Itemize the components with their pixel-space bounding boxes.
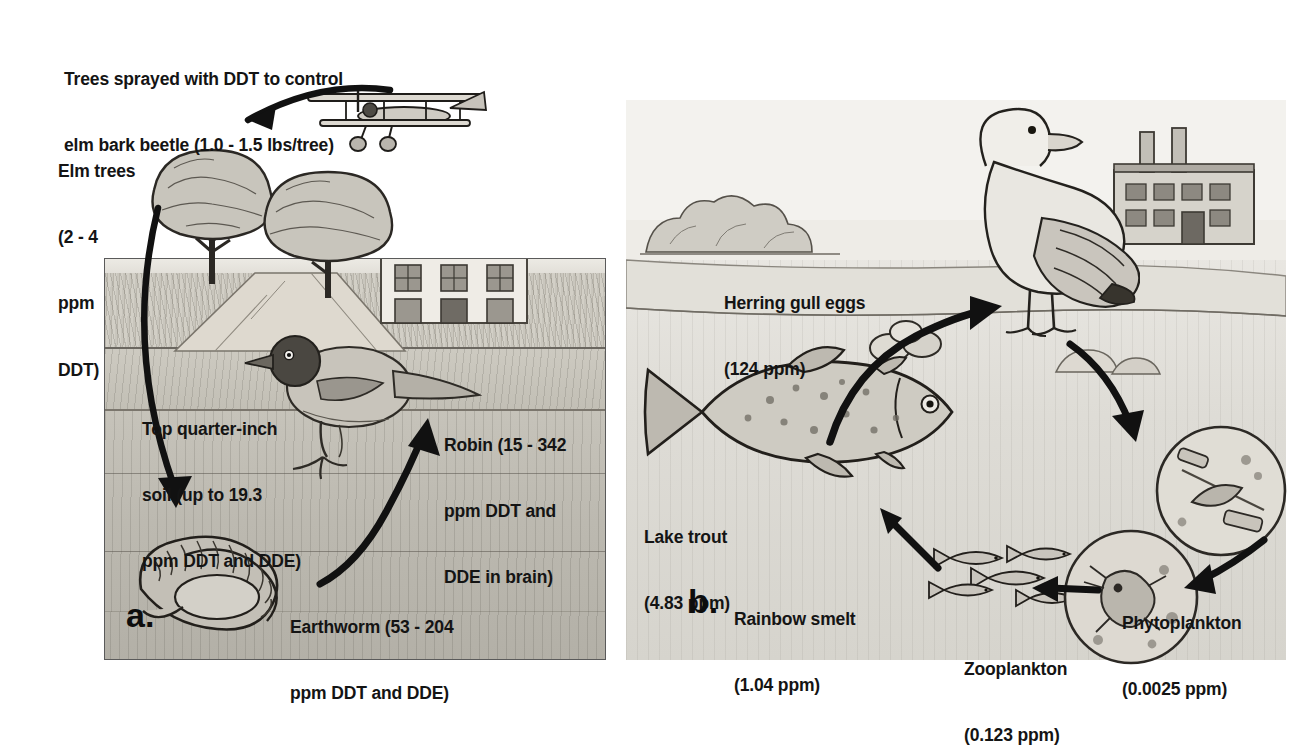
label-robin-line2: ppm DDT and [444, 500, 566, 522]
panel-b: Herring gull eggs (124 ppm) Lake trout (… [626, 100, 1286, 660]
label-rainbow-smelt: Rainbow smelt (1.04 ppm) [734, 564, 856, 740]
straight-arrow-smelt-to-trout-icon [864, 496, 950, 582]
label-elm-line1: Elm trees [58, 160, 135, 182]
label-earthworm: Earthworm (53 - 204 ppm DDT and DDE) [290, 572, 453, 748]
label-spray-line1: Trees sprayed with DDT to control [64, 68, 343, 90]
label-phyto-line2: (0.0025 ppm) [1122, 678, 1242, 700]
label-gull-line2: (124 ppm) [724, 358, 865, 380]
label-zoo-line1: Zooplankton [964, 658, 1067, 680]
label-soil-line3: ppm DDT and DDE) [142, 550, 301, 572]
label-elm-trees: Elm trees (2 - 4 ppm DDT) [58, 116, 135, 425]
label-smelt-line2: (1.04 ppm) [734, 674, 856, 696]
label-phyto-line1: Phytoplankton [1122, 612, 1242, 634]
label-elm-line4: DDT) [58, 359, 135, 381]
label-gull-line1: Herring gull eggs [724, 292, 865, 314]
label-zoo-line2: (0.123 ppm) [964, 724, 1067, 746]
label-robin-line3: DDE in brain) [444, 566, 566, 588]
label-smelt-line1: Rainbow smelt [734, 608, 856, 630]
label-soil-line2: soil (up to 19.3 [142, 484, 301, 506]
label-earthworm-line1: Earthworm (53 - 204 [290, 616, 453, 638]
curved-arrow-factory-to-phyto-icon [1056, 338, 1196, 458]
label-robin: Robin (15 - 342 ppm DDT and DDE in brain… [444, 390, 566, 633]
label-robin-line1: Robin (15 - 342 [444, 434, 566, 456]
label-trout-line1: Lake trout [644, 526, 730, 548]
label-elm-line2: (2 - 4 [58, 226, 135, 248]
shrub-icon [640, 182, 840, 258]
panel-a-letter: a. [126, 596, 154, 635]
label-topsoil: Top quarter-inch soil (up to 19.3 ppm DD… [142, 374, 301, 617]
straight-arrow-zoo-to-smelt-icon [1024, 570, 1104, 616]
label-earthworm-line2: ppm DDT and DDE) [290, 682, 453, 704]
label-soil-line1: Top quarter-inch [142, 418, 301, 440]
panel-a: Trees sprayed with DDT to control elm ba… [104, 26, 604, 658]
label-zooplankton: Zooplankton (0.123 ppm) [964, 614, 1067, 749]
label-lake-trout: Lake trout (4.83 ppm) [644, 482, 730, 658]
label-elm-line3: ppm [58, 292, 135, 314]
label-phytoplankton: Phytoplankton (0.0025 ppm) [1122, 568, 1242, 744]
label-herring-gull-eggs: Herring gull eggs (124 ppm) [724, 248, 865, 424]
panel-b-letter: b. [688, 582, 718, 621]
